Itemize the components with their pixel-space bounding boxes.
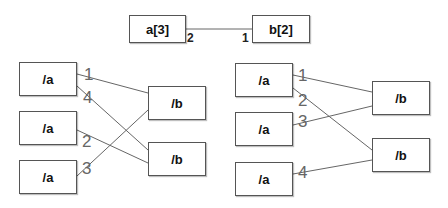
- right-edge-label-3: 3: [298, 113, 307, 130]
- class-box-b: b[2]: [252, 15, 310, 43]
- left-instance-b-1: /b: [148, 86, 206, 120]
- multiplicity-label-a: 2: [187, 32, 194, 44]
- left-edge-label-3: 3: [82, 160, 91, 177]
- class-box-a: a[3]: [129, 15, 186, 43]
- right-edge-label-1: 1: [298, 67, 307, 84]
- right-instance-b-1: /b: [372, 81, 430, 115]
- right-instance-a-1: /a: [235, 63, 293, 97]
- right-instance-b-2: /b: [372, 138, 430, 172]
- left-edge-label-2: 2: [82, 133, 91, 150]
- right-instance-a-3: /a: [235, 162, 293, 196]
- left-instance-a-3: /a: [19, 160, 77, 194]
- left-instance-a-2: /a: [19, 111, 77, 145]
- right-instance-a-2: /a: [235, 112, 293, 146]
- left-instance-a-1: /a: [19, 62, 77, 96]
- right-edge-label-4: 4: [298, 164, 307, 181]
- left-edge-label-1: 1: [84, 66, 93, 83]
- left-instance-b-2: /b: [148, 142, 206, 176]
- multiplicity-label-b: 1: [242, 32, 249, 44]
- left-edge-label-4: 4: [83, 89, 92, 106]
- right-edge-label-2: 2: [298, 92, 307, 109]
